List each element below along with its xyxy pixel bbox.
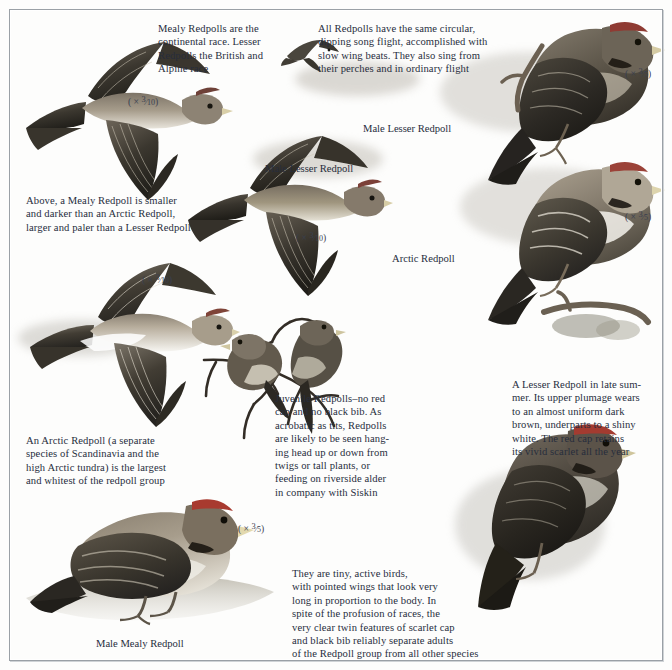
scale-numerator: 3 (638, 67, 642, 76)
plate-frame (9, 9, 663, 661)
label-arctic-redpoll: Arctic Redpoll (392, 252, 455, 265)
caption-juvenile-redpolls: Juvenile Redpolls–no red cap and no blac… (275, 392, 425, 499)
scale-prefix: ( × (128, 96, 139, 107)
scale-arctic-redpoll-flight: ( × 3⁄10) (142, 272, 172, 287)
scale-suffix: ) (169, 274, 172, 285)
scale-denominator: 10 (161, 276, 169, 285)
scale-suffix: ) (261, 523, 264, 534)
caption-song-flight: All Redpolls have the same circular, dip… (318, 22, 548, 76)
scale-fraction: 3⁄10 (141, 98, 155, 107)
scale-suffix: ) (323, 232, 326, 243)
illustration-male-mealy-redpoll-on-ground (26, 480, 276, 640)
scale-numerator: 3 (155, 273, 159, 282)
illustration-arctic-redpoll-perched (462, 150, 667, 325)
illustration-arctic-redpoll-in-flight (20, 255, 240, 445)
scale-suffix: ) (648, 68, 651, 79)
scale-lesser-redpoll-flight: ( × 3⁄10) (296, 230, 326, 245)
caption-arctic-redpoll-description: An Arctic Redpoll (a separate species of… (26, 434, 226, 488)
scale-denominator: 10 (315, 234, 323, 243)
scale-prefix: ( × (625, 68, 636, 79)
caption-mealy-size-comparison: Above, a Mealy Redpoll is smaller and da… (26, 194, 246, 234)
scale-male-mealy-redpoll: ( × 3⁄5) (238, 521, 264, 536)
vegetation-wash (18, 320, 143, 356)
scale-prefix: ( × (142, 274, 153, 285)
scale-denominator: 10 (147, 98, 155, 107)
scale-arctic-redpoll-perched: ( × 3⁄5) (625, 209, 651, 224)
scale-numerator: 3 (638, 210, 642, 219)
scale-prefix: ( × (625, 211, 636, 222)
scale-numerator: 3 (309, 231, 313, 240)
label-male-lesser-redpoll-flight: Male Lesser Redpoll (265, 162, 353, 175)
scale-fraction: 3⁄5 (638, 70, 648, 79)
scale-prefix: ( × (238, 523, 249, 534)
scale-fraction: 3⁄5 (251, 525, 261, 534)
scale-numerator: 3 (251, 522, 255, 531)
scale-suffix: ) (648, 211, 651, 222)
scale-fraction: 3⁄10 (155, 276, 169, 285)
scale-numerator: 3 (141, 95, 145, 104)
vegetation-wash (455, 470, 605, 580)
label-male-mealy-redpoll: Male Mealy Redpoll (96, 637, 184, 650)
scale-prefix: ( × (296, 232, 307, 243)
scale-fraction: 3⁄5 (638, 213, 648, 222)
caption-tiny-active-birds: They are tiny, active birds, with pointe… (292, 567, 582, 661)
illustration-lichen-branch (540, 292, 650, 352)
scale-mealy-redpoll-flight: ( × 3⁄10) (128, 94, 158, 109)
scale-fraction: 3⁄10 (309, 234, 323, 243)
scale-suffix: ) (155, 96, 158, 107)
vegetation-wash (460, 168, 640, 246)
label-male-lesser-redpoll-perched: Male Lesser Redpoll (363, 122, 451, 135)
caption-mealy-vs-lesser-race: Mealy Redpolls are the continental race.… (158, 22, 328, 76)
redpoll-identification-plate: Mealy Redpolls are the continental race.… (0, 0, 672, 670)
caption-lesser-redpoll-late-summer: A Lesser Redpoll in late sum- mer. Its u… (512, 378, 662, 458)
scale-male-lesser-redpoll-perched: ( × 3⁄5) (625, 66, 651, 81)
